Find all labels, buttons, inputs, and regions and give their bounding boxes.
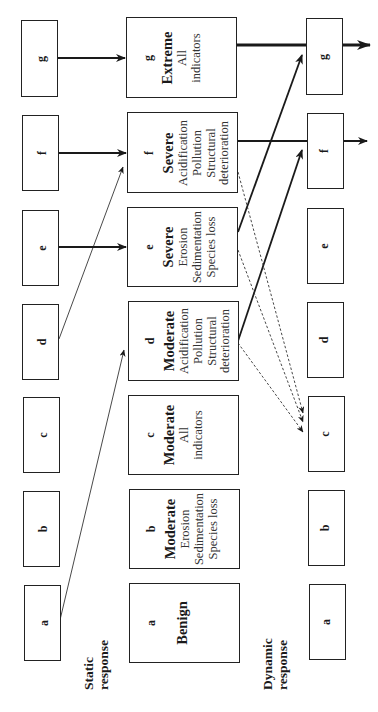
indicator-text: Acidification <box>176 120 190 186</box>
dynamic-response-label: Dynamic response <box>260 618 292 690</box>
severity-level: Severe <box>159 227 176 268</box>
middle-box-g: g Extreme All indicators <box>126 17 237 98</box>
middle-box-letter: c <box>142 432 156 437</box>
severity-level: Moderate <box>160 311 177 371</box>
middle-box-e: e Severe Erosion Sedimentation Species l… <box>127 207 238 287</box>
left-box-e: e <box>22 210 59 286</box>
indicator-text: Pollution <box>191 318 205 364</box>
middle-box-letter: a <box>143 620 157 626</box>
label-line: response <box>275 618 290 690</box>
indicator-text: Species loss <box>204 217 218 278</box>
right-box-g: g <box>306 18 343 95</box>
indicator-text: All <box>177 427 191 443</box>
severity-level: Severe <box>159 132 176 173</box>
dashed-arrow-middle-d-to-right-c <box>238 343 303 432</box>
dashed-arrow-middle-f-to-right-c <box>238 172 303 413</box>
indicator-text: Sedimentation <box>190 211 204 283</box>
label-line: Static <box>81 620 96 690</box>
severity-level: Extreme <box>158 31 175 84</box>
middle-box-d: d Moderate Acidification Pollution Struc… <box>128 301 239 381</box>
arrow-middle-e-to-right-g <box>238 55 302 232</box>
indicator-text: indicators <box>191 410 205 459</box>
right-box-a: a <box>309 584 346 660</box>
left-box-c: c <box>23 397 60 473</box>
right-box-label: d <box>316 337 330 344</box>
middle-box-letter: b <box>143 526 157 533</box>
left-box-b: b <box>23 491 60 567</box>
left-box-label: f <box>34 151 48 155</box>
left-box-label: b <box>35 526 49 533</box>
right-box-label: c <box>317 431 331 436</box>
left-box-label: c <box>35 432 49 437</box>
arrow-left-a-to-middle-d <box>60 350 124 620</box>
indicator-text: Erosion <box>176 228 190 267</box>
severity-level: Benign <box>173 601 190 645</box>
middle-box-c: c Moderate All indicators <box>128 395 239 475</box>
right-box-e: e <box>307 208 344 284</box>
arrow-left-d-to-middle-f <box>59 167 123 339</box>
right-box-label: a <box>318 619 332 625</box>
middle-box-letter: d <box>142 338 156 345</box>
indicator-text: Species loss <box>206 499 220 560</box>
severity-level: Moderate <box>161 499 178 559</box>
label-line: response <box>96 620 111 690</box>
severity-level: Moderate <box>160 405 177 465</box>
right-box-f: f <box>307 113 344 189</box>
right-box-label: g <box>315 54 329 60</box>
indicator-text: All <box>175 50 189 66</box>
left-box-a: a <box>24 585 61 661</box>
label-line: Dynamic <box>260 618 275 690</box>
indicator-text: Erosion <box>178 510 192 549</box>
middle-box-letter: e <box>141 244 155 249</box>
indicator-text: deterioration <box>217 121 231 185</box>
left-box-d: d <box>22 304 59 380</box>
middle-box-letter: g <box>140 55 154 61</box>
indicator-text: Pollution <box>190 130 204 176</box>
indicator-text: indicators <box>189 33 203 82</box>
right-box-d: d <box>307 302 344 378</box>
right-box-label: b <box>317 525 331 532</box>
right-box-b: b <box>308 490 345 566</box>
right-box-label: e <box>316 243 330 248</box>
left-box-label: d <box>34 339 48 346</box>
left-box-label: g <box>33 56 47 62</box>
indicator-text: Sedimentation <box>192 493 206 565</box>
left-box-label: a <box>36 620 50 626</box>
right-box-c: c <box>308 396 345 472</box>
static-response-label: Static response <box>81 620 113 690</box>
dashed-arrow-middle-e-to-right-c <box>238 250 303 422</box>
indicator-text: Acidification <box>177 308 191 374</box>
indicator-text: deterioration <box>218 309 232 373</box>
indicator-text: Structural <box>205 316 219 365</box>
left-box-label: e <box>34 245 48 250</box>
left-box-f: f <box>22 115 59 191</box>
middle-box-a: a Benign <box>129 583 240 663</box>
arrow-middle-d-to-right-f <box>238 150 302 341</box>
indicator-text: Structural <box>204 128 218 177</box>
middle-box-f: f Severe Acidification Pollution Structu… <box>127 112 238 193</box>
right-box-label: f <box>316 149 330 153</box>
middle-box-b: b Moderate Erosion Sedimentation Species… <box>129 489 240 569</box>
middle-box-letter: f <box>141 151 155 155</box>
left-box-g: g <box>21 20 58 97</box>
